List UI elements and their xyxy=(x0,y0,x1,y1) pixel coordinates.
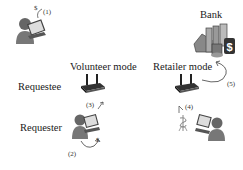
user-laptop-icon xyxy=(196,112,226,142)
bank-graphic: $ xyxy=(192,22,238,58)
step-1-label: (1) xyxy=(43,8,51,16)
dollar-symbol-2: $ xyxy=(96,136,100,144)
step-4-label: (4) xyxy=(185,103,193,111)
bank-buildings-icon: $ xyxy=(192,22,238,58)
arrow-step-4 xyxy=(177,104,185,114)
retailer-user xyxy=(196,112,226,142)
money-icon xyxy=(178,114,188,132)
requestee-label: Requestee xyxy=(18,81,61,92)
step-2-label: (2) xyxy=(68,150,76,158)
volunteer-mode-label: Volunteer mode xyxy=(70,61,137,72)
arrow-step-3 xyxy=(97,100,105,110)
volunteer-router xyxy=(80,74,106,94)
retailer-router xyxy=(174,74,200,94)
requester-label: Requester xyxy=(20,122,62,133)
step-5-label: (5) xyxy=(227,80,235,88)
bank-label: Bank xyxy=(200,9,222,20)
svg-text:$: $ xyxy=(226,41,232,53)
money-graphic xyxy=(178,114,188,132)
router-icon xyxy=(80,74,106,94)
step-3-label: (3) xyxy=(86,101,94,109)
router-icon xyxy=(174,74,200,94)
